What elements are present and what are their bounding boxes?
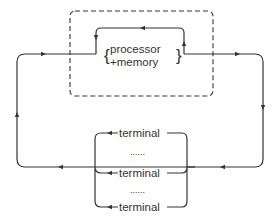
- terminal-label: terminal: [119, 201, 160, 213]
- arrow-icon: [182, 41, 186, 46]
- main-loop-line: [95, 54, 263, 167]
- ellipsis: ......: [130, 147, 145, 157]
- terminal-bus-right: [167, 133, 187, 207]
- arrow-icon: [41, 52, 46, 56]
- memory-label: +memory: [110, 56, 158, 68]
- arrow-icon: [94, 35, 98, 40]
- arrow-icon: [107, 171, 112, 175]
- arrow-icon: [15, 112, 19, 117]
- terminal-label: terminal: [119, 167, 160, 179]
- ellipsis: ......: [130, 185, 145, 195]
- arrow-icon: [107, 131, 112, 135]
- terminal-label: terminal: [119, 127, 160, 139]
- right-brace-icon: }: [176, 46, 182, 65]
- arrow-icon: [58, 165, 63, 169]
- terminal-bus-left: [95, 133, 118, 207]
- arrow-icon: [107, 205, 112, 209]
- time-sharing-diagram: { } processor +memory terminal ...... te…: [0, 0, 278, 218]
- processor-label: processor: [110, 43, 161, 55]
- arrow-icon: [235, 52, 240, 56]
- main-loop-line: [17, 139, 95, 167]
- arrow-icon: [220, 165, 225, 169]
- arrow-icon: [140, 26, 145, 30]
- arrow-icon: [261, 105, 265, 110]
